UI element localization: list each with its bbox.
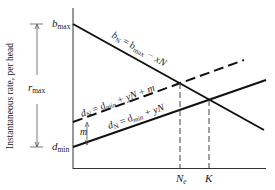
rmax-label: rmax bbox=[28, 81, 45, 95]
death-rate-line bbox=[73, 80, 266, 147]
dmin-label: dmin bbox=[52, 140, 69, 154]
m-label: m bbox=[80, 126, 87, 137]
k-label: K bbox=[204, 172, 213, 184]
ne-label: Ne bbox=[175, 172, 187, 186]
harvest-diagram: Instantaneous rate, per head rmax bmax d… bbox=[0, 0, 275, 190]
y-axis-title: Instantaneous rate, per head bbox=[5, 43, 15, 149]
bmax-label: bmax bbox=[52, 17, 71, 31]
